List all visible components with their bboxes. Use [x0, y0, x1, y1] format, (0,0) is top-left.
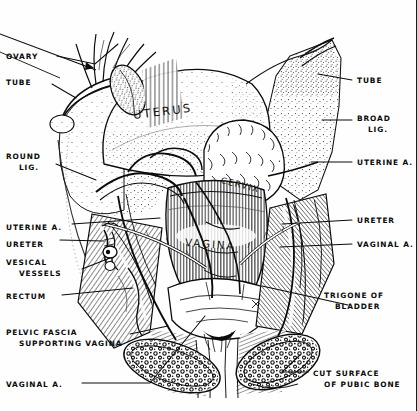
label-tube-right: TUBE — [357, 76, 382, 87]
label-line: VESICAL — [6, 258, 61, 269]
label-ureter-right: URETER — [357, 216, 395, 227]
illustration-canvas: ••••• — [0, 0, 417, 411]
label-uterine-artery-right: UTERINE A. — [357, 158, 413, 169]
label-line: VAGINAL A. — [6, 380, 63, 391]
label-line: TRIGONE OF — [324, 291, 384, 302]
label-line: RECTUM — [6, 292, 46, 303]
label-uterine-artery-left: UTERINE A. — [6, 223, 62, 234]
label-pelvic-fascia: PELVIC FASCIASUPPORTING VAGINA — [6, 328, 122, 349]
label-line: VESSELS — [6, 269, 61, 280]
label-line: ROUND — [6, 152, 41, 163]
label-line: TUBE — [357, 76, 382, 87]
label-tube-left: TUBE — [6, 78, 31, 89]
label-line: CUT SURFACE — [313, 369, 401, 380]
label-cut-surface-pubic: CUT SURFACEOF PUBIC BONE — [313, 369, 401, 390]
label-line: URETER — [6, 240, 44, 251]
label-broad-lig: BROADLIG. — [357, 114, 391, 135]
label-line: UTERINE A. — [6, 223, 62, 234]
label-line: BROAD — [357, 114, 391, 125]
label-ureter-left: URETER — [6, 240, 44, 251]
label-line: LIG. — [6, 163, 41, 174]
label-line: LIG. — [357, 125, 391, 136]
label-round-lig: ROUNDLIG. — [6, 152, 41, 173]
label-line: SUPPORTING VAGINA — [6, 339, 122, 350]
label-line: OVARY — [6, 52, 38, 63]
label-trigone-of-bladder: TRIGONE OFBLADDER — [324, 291, 384, 312]
label-ovary: OVARY — [6, 52, 38, 63]
label-rectum: RECTUM — [6, 292, 46, 303]
label-vaginal-artery-right: VAGINAL A. — [357, 240, 414, 251]
label-vaginal-artery-left: VAGINAL A. — [6, 380, 63, 391]
label-line: UTERINE A. — [357, 158, 413, 169]
label-line: VAGINAL A. — [357, 240, 414, 251]
label-line: TUBE — [6, 78, 31, 89]
anatomical-plate: ••••• — [0, 0, 417, 411]
label-line: URETER — [357, 216, 395, 227]
label-line: OF PUBIC BONE — [313, 380, 401, 391]
label-vesical-vessels: VESICALVESSELS — [6, 258, 61, 279]
label-line: PELVIC FASCIA — [6, 328, 122, 339]
label-line: BLADDER — [324, 302, 384, 313]
